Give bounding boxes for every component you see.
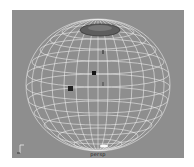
3d-viewport[interactable]: persp xyxy=(12,10,184,158)
sphere-wireframe[interactable] xyxy=(12,10,184,158)
component-marker xyxy=(68,86,73,91)
component-marker xyxy=(92,71,96,75)
camera-label: persp xyxy=(12,151,184,157)
